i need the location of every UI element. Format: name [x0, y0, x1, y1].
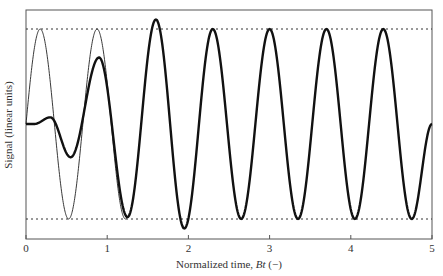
x-tick-label: 0	[23, 242, 29, 254]
x-axis-ticks: 012345	[23, 235, 435, 254]
series-thick-response	[26, 20, 432, 229]
x-tick-label: 4	[348, 242, 354, 254]
plot-frame	[26, 10, 432, 239]
x-tick-label: 2	[186, 242, 192, 254]
x-axis-label: Normalized time, Bt (−)	[176, 258, 282, 271]
x-tick-label: 5	[429, 242, 435, 254]
x-tick-label: 3	[267, 242, 273, 254]
series-group	[26, 20, 432, 229]
reference-lines	[26, 29, 432, 219]
x-tick-label: 1	[104, 242, 110, 254]
chart: 012345 Signal (linear units) Normalized …	[0, 0, 443, 276]
y-axis-label: Signal (linear units)	[2, 81, 15, 169]
